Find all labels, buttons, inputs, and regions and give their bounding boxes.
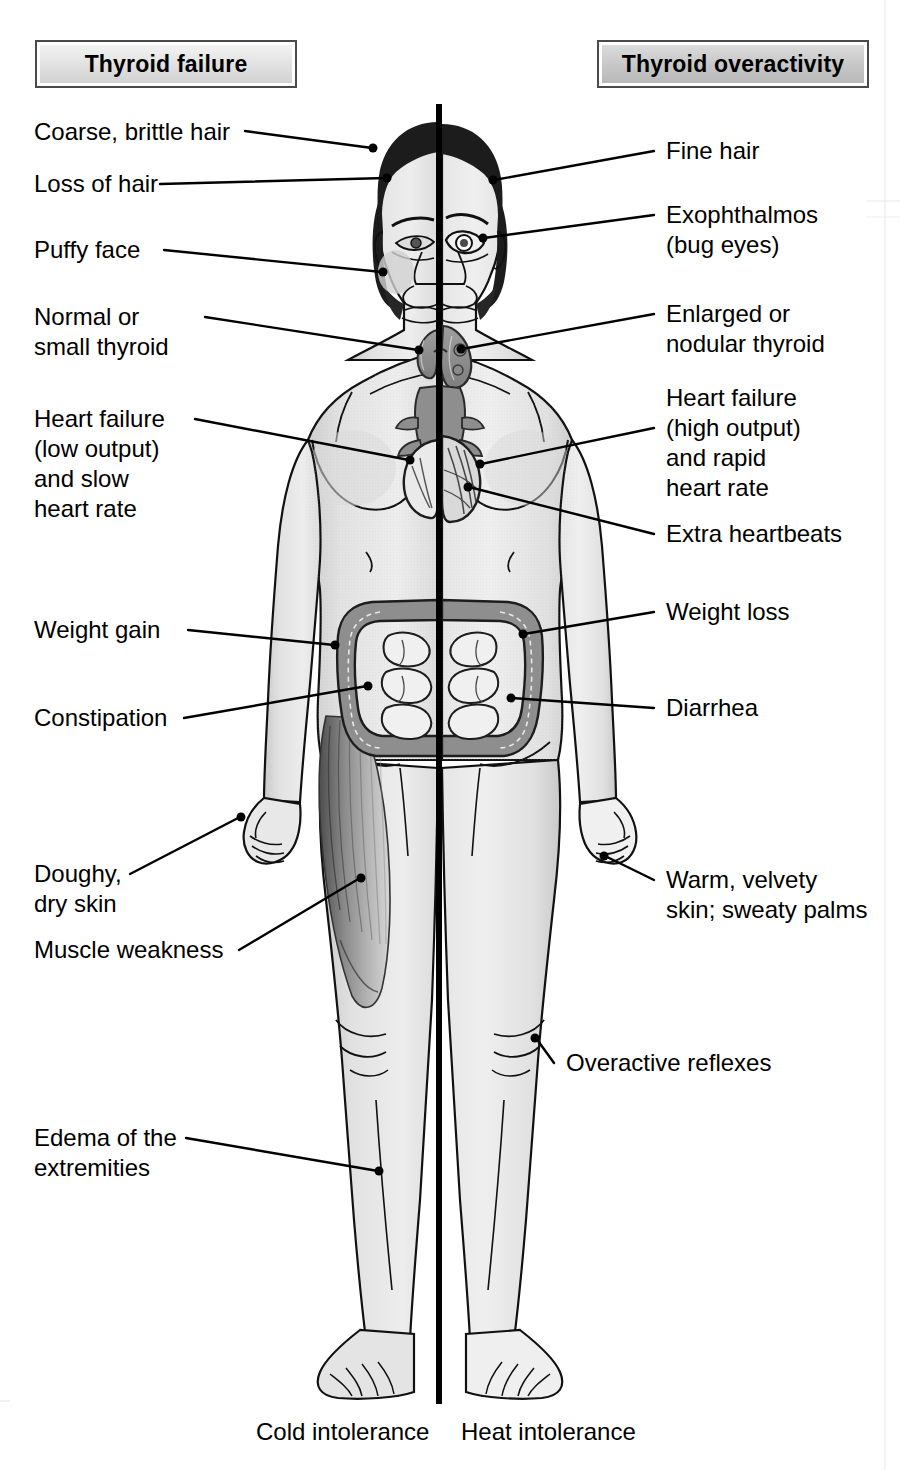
label-enlarged-thyroid: Enlarged or nodular thyroid [666, 299, 825, 359]
label-normal-small-thyroid: Normal or small thyroid [34, 302, 169, 362]
label-diarrhea: Diarrhea [666, 693, 758, 723]
label-heart-failure-high: Heart failure (high output) and rapid he… [666, 383, 801, 503]
body-right-half [442, 124, 636, 1399]
label-heart-failure-low: Heart failure (low output) and slow hear… [34, 404, 165, 524]
label-doughy-dry-skin: Doughy, dry skin [34, 859, 122, 919]
label-constipation: Constipation [34, 703, 167, 733]
label-overactive-reflexes: Overactive reflexes [566, 1048, 771, 1078]
label-puffy-face: Puffy face [34, 235, 140, 265]
header-box-thyroid-overactivity: Thyroid overactivity [597, 40, 869, 88]
caption-heat-intolerance: Heat intolerance [461, 1418, 636, 1446]
label-fine-hair: Fine hair [666, 136, 759, 166]
label-weight-gain: Weight gain [34, 615, 160, 645]
label-muscle-weakness: Muscle weakness [34, 935, 223, 965]
header-title-left: Thyroid failure [40, 45, 292, 83]
label-weight-loss: Weight loss [666, 597, 790, 627]
label-exophthalmos: Exophthalmos (bug eyes) [666, 200, 818, 260]
caption-cold-intolerance: Cold intolerance [256, 1418, 429, 1446]
label-extra-heartbeats: Extra heartbeats [666, 519, 842, 549]
header-box-thyroid-failure: Thyroid failure [35, 40, 297, 88]
label-warm-velvety-skin: Warm, velvety skin; sweaty palms [666, 865, 867, 925]
label-coarse-brittle-hair: Coarse, brittle hair [34, 117, 230, 147]
thyroid-comparison-diagram: Thyroid failure Thyroid overactivity Coa… [0, 0, 900, 1470]
label-edema-extremities: Edema of the extremities [34, 1123, 177, 1183]
label-loss-of-hair: Loss of hair [34, 169, 158, 199]
header-title-right: Thyroid overactivity [602, 45, 864, 83]
